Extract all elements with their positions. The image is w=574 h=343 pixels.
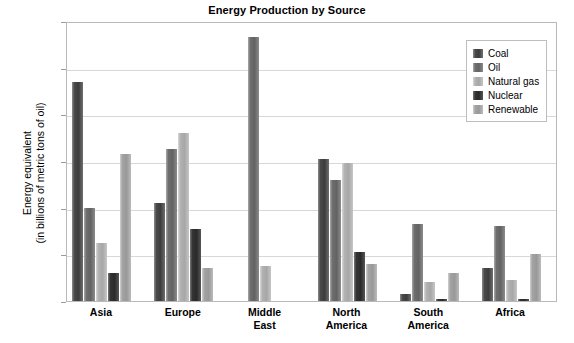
legend-item-coal[interactable]: Coal [473,46,539,60]
bar-asia-oil[interactable] [84,208,95,301]
bar-asia-renewable[interactable] [120,154,131,301]
x-axis-tick-label-northamerica: NorthAmerica [301,306,391,332]
bar-europe-renewable[interactable] [202,268,213,301]
y-axis-label: Energy equivalent (in billions of metric… [21,33,47,313]
legend-item-renewable[interactable]: Renewable [473,102,539,116]
bar-europe-naturalgas[interactable] [178,133,189,301]
legend-swatch-icon-renewable [473,105,483,114]
x-axis-tick-label-line: Europe [138,306,228,319]
legend-swatch-icon-nuclear [473,91,483,100]
bar-southamerica-oil[interactable] [412,224,423,301]
x-axis-tick-label-europe: Europe [138,306,228,319]
bar-group [236,23,295,301]
bar-northamerica-coal[interactable] [318,159,329,301]
x-axis-tick-label-middleeast: MiddleEast [220,306,310,332]
legend-item-nuclear[interactable]: Nuclear [473,88,539,102]
x-axis-tick-label-line: South [383,306,473,319]
legend-label: Renewable [488,104,538,115]
y-axis-label-line-1: Energy equivalent [21,33,34,313]
bar-southamerica-nuclear[interactable] [436,299,447,301]
bar-southamerica-naturalgas[interactable] [424,282,435,301]
bar-africa-renewable[interactable] [530,254,541,301]
x-axis-tick-label-line: North [301,306,391,319]
bar-northamerica-nuclear[interactable] [354,252,365,301]
bar-africa-nuclear[interactable] [518,299,529,301]
legend-swatch-icon-coal [473,49,483,58]
legend-swatch-icon-oil [473,63,483,72]
bar-europe-nuclear[interactable] [190,229,201,301]
bar-northamerica-oil[interactable] [330,180,341,301]
legend-item-naturalgas[interactable]: Natural gas [473,74,539,88]
bar-southamerica-renewable[interactable] [448,273,459,301]
legend-label: Natural gas [488,76,539,87]
bar-group [72,23,131,301]
x-axis-tick-label-africa: Africa [465,306,555,319]
x-axis-tick-label-line: East [220,319,310,332]
legend: CoalOilNatural gasNuclearRenewable [466,40,547,122]
bar-africa-coal[interactable] [482,268,493,301]
bar-middleeast-naturalgas[interactable] [260,266,271,301]
bar-africa-oil[interactable] [494,226,505,301]
bar-northamerica-naturalgas[interactable] [342,163,353,301]
legend-label: Nuclear [488,90,522,101]
bar-africa-naturalgas[interactable] [506,280,517,301]
bar-middleeast-oil[interactable] [248,37,259,301]
bar-asia-nuclear[interactable] [108,273,119,301]
bar-group [318,23,377,301]
bar-europe-coal[interactable] [154,203,165,301]
y-axis-tick-mark [61,302,66,303]
legend-swatch-icon-naturalgas [473,77,483,86]
chart-container: Energy Production by Source Energy equiv… [0,0,574,343]
x-axis-tick-label-line: America [301,319,391,332]
bar-group [154,23,213,301]
bar-asia-coal[interactable] [72,82,83,301]
x-axis-tick-label-asia: Asia [56,306,146,319]
y-axis-label-line-2: (in billions of metric tons of oil) [34,33,47,313]
bar-group [400,23,459,301]
x-axis-tick-label-line: Middle [220,306,310,319]
bar-southamerica-coal[interactable] [400,294,411,301]
legend-label: Coal [488,48,509,59]
x-axis-tick-label-line: Asia [56,306,146,319]
x-axis-tick-label-southamerica: SouthAmerica [383,306,473,332]
x-axis-tick-label-line: Africa [465,306,555,319]
bar-europe-oil[interactable] [166,149,177,301]
legend-item-oil[interactable]: Oil [473,60,539,74]
chart-title: Energy Production by Source [0,4,574,16]
bar-northamerica-renewable[interactable] [366,264,377,301]
bar-asia-naturalgas[interactable] [96,243,107,301]
x-axis-tick-label-line: America [383,319,473,332]
legend-label: Oil [488,62,500,73]
